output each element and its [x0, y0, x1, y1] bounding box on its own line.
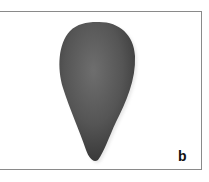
panel-label: b [178, 149, 187, 163]
